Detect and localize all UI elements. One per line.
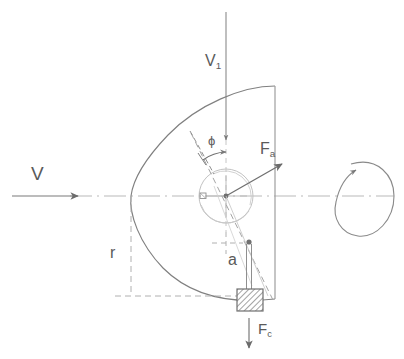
counterweight-mass <box>237 289 263 311</box>
offset-label: a <box>228 251 237 269</box>
relative-velocity-label: V1 <box>205 52 221 70</box>
centrifugal-force-subscript: c <box>267 329 272 339</box>
aerodynamic-force-label: Fa <box>260 140 275 158</box>
centrifugal-force-label: Fc <box>258 320 272 337</box>
aerodynamic-force-subscript: a <box>270 148 276 159</box>
pitch-angle-label: ϕ <box>208 133 215 148</box>
blade-spar-lines <box>214 186 268 296</box>
rotation-indicator <box>335 162 394 236</box>
radius-guides <box>115 196 238 296</box>
radius-label: r <box>110 244 115 262</box>
inflow-velocity-label: V <box>31 163 44 185</box>
diagram-vector-layer <box>0 0 404 359</box>
chord-reference-line <box>191 133 273 300</box>
aerodynamic-force-arrow <box>226 164 282 196</box>
diagram-canvas: V V1 Fa Fc r a ϕ <box>0 0 404 359</box>
relative-velocity-subscript: 1 <box>216 60 222 71</box>
